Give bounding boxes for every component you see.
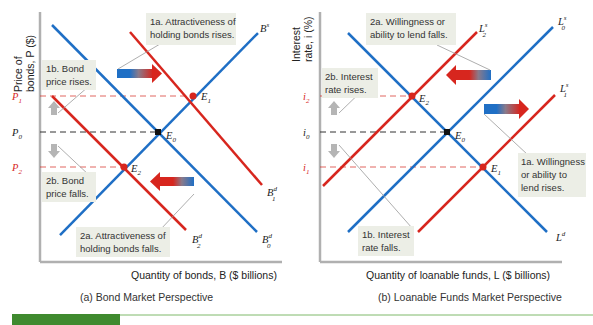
p2-label: P2 bbox=[11, 162, 22, 176]
loanable-supply-curve-2 bbox=[323, 32, 477, 186]
figure-canvas: Price of bonds, P ($) P1 P0 P2 Bs Bd1 Bd… bbox=[0, 0, 593, 325]
y-axis-label-line2: rate, i (%) bbox=[302, 16, 314, 62]
svg-text:1a. Willingness: 1a. Willingness bbox=[521, 156, 585, 167]
demand-shift-right-arrow bbox=[117, 64, 162, 83]
svg-text:holding bonds falls.: holding bonds falls. bbox=[80, 243, 161, 254]
note-1a-bond: 1a. Attractiveness of holding bonds rise… bbox=[146, 13, 236, 45]
note-1a-loanable: 1a. Willingness or ability to lend rises… bbox=[518, 153, 586, 197]
svg-text:2b. Interest: 2b. Interest bbox=[325, 71, 373, 82]
bond-demand-1-label: Bd1 bbox=[267, 185, 277, 203]
note-2a-bond: 2a. Attractiveness of holding bonds fall… bbox=[76, 227, 170, 257]
supply-2-label: Ls2 bbox=[478, 21, 488, 39]
rate-up-arrow-icon bbox=[328, 101, 340, 115]
i1-label: i1 bbox=[303, 162, 309, 176]
bond-demand-curve-2 bbox=[52, 96, 186, 230]
svg-text:lend rises.: lend rises. bbox=[521, 182, 564, 193]
bond-demand-0-label: Bd0 bbox=[262, 232, 272, 250]
bond-demand-curve-1 bbox=[130, 32, 262, 185]
p0-label: P0 bbox=[11, 127, 22, 141]
svg-text:price falls.: price falls. bbox=[46, 188, 89, 199]
panel-b-caption: (b) Loanable Funds Market Perspective bbox=[378, 291, 562, 303]
p1-label: P1 bbox=[11, 91, 22, 105]
svg-text:2b. Bond: 2b. Bond bbox=[46, 175, 84, 186]
svg-text:or ability to: or ability to bbox=[521, 169, 567, 180]
svg-text:2a. Willingness or: 2a. Willingness or bbox=[370, 16, 445, 27]
svg-text:ability to lend falls.: ability to lend falls. bbox=[370, 29, 448, 40]
footer-green-bar bbox=[12, 314, 120, 325]
svg-text:1b. Bond: 1b. Bond bbox=[46, 63, 84, 74]
equilibrium-e2-point bbox=[121, 164, 128, 171]
bond-supply-label: Bs bbox=[260, 21, 269, 34]
rate-down-arrow-icon bbox=[328, 144, 340, 158]
supply-shift-right-arrow bbox=[484, 99, 529, 119]
svg-text:holding bonds rises.: holding bonds rises. bbox=[150, 29, 235, 40]
i0-label: i0 bbox=[303, 127, 310, 141]
panel-loanable-funds-market: Interest rate, i (%) i2 i0 i1 Ls0 Ls2 Ls… bbox=[290, 12, 586, 303]
note-2a-loanable: 2a. Willingness or ability to lend falls… bbox=[366, 13, 456, 45]
bond-demand-2-label: Bd2 bbox=[192, 232, 202, 250]
note-2b-loanable: 2b. Interest rate rises. bbox=[322, 68, 378, 98]
svg-text:rate falls.: rate falls. bbox=[362, 242, 401, 253]
note-2b-bond: 2b. Bond price falls. bbox=[42, 172, 96, 202]
note-1b-loanable: 1b. Interest rate falls. bbox=[358, 226, 414, 256]
svg-text:1b. Interest: 1b. Interest bbox=[362, 229, 410, 240]
supply-0-label: Ls0 bbox=[557, 14, 567, 32]
equilibrium-e1-point bbox=[480, 164, 487, 171]
svg-text:1a. Attractiveness of: 1a. Attractiveness of bbox=[150, 16, 236, 27]
x-axis-label: Quantity of bonds, B ($ billions) bbox=[131, 269, 277, 281]
svg-text:rate rises.: rate rises. bbox=[325, 84, 367, 95]
panel-a-caption: (a) Bond Market Perspective bbox=[80, 291, 213, 303]
equilibrium-e2-point bbox=[409, 93, 416, 100]
y-axis-label-line1: Interest bbox=[290, 27, 302, 62]
equilibrium-e1-point bbox=[190, 93, 197, 100]
demand-shift-left-arrow bbox=[150, 172, 194, 191]
e1-label: E1 bbox=[200, 91, 211, 105]
i2-label: i2 bbox=[303, 91, 310, 105]
x-axis-label: Quantity of loanable funds, L ($ billion… bbox=[366, 269, 550, 281]
supply-1-label: Ls1 bbox=[559, 81, 569, 99]
supply-shift-left-arrow bbox=[446, 65, 491, 85]
y-axis-label-line2: bonds, P ($) bbox=[24, 35, 36, 92]
equilibrium-e0-point bbox=[155, 129, 161, 135]
svg-text:2a. Attractiveness of: 2a. Attractiveness of bbox=[80, 230, 166, 241]
equilibrium-e0-point bbox=[444, 129, 450, 135]
y-axis-label-line1: Price of bbox=[12, 56, 24, 92]
note-1b-bond: 1b. Bond price rises. bbox=[42, 60, 96, 90]
panel-bond-market: Price of bonds, P ($) P1 P0 P2 Bs Bd1 Bd… bbox=[11, 12, 282, 303]
svg-text:price rises.: price rises. bbox=[46, 76, 92, 87]
demand-label: Ld bbox=[555, 230, 566, 243]
